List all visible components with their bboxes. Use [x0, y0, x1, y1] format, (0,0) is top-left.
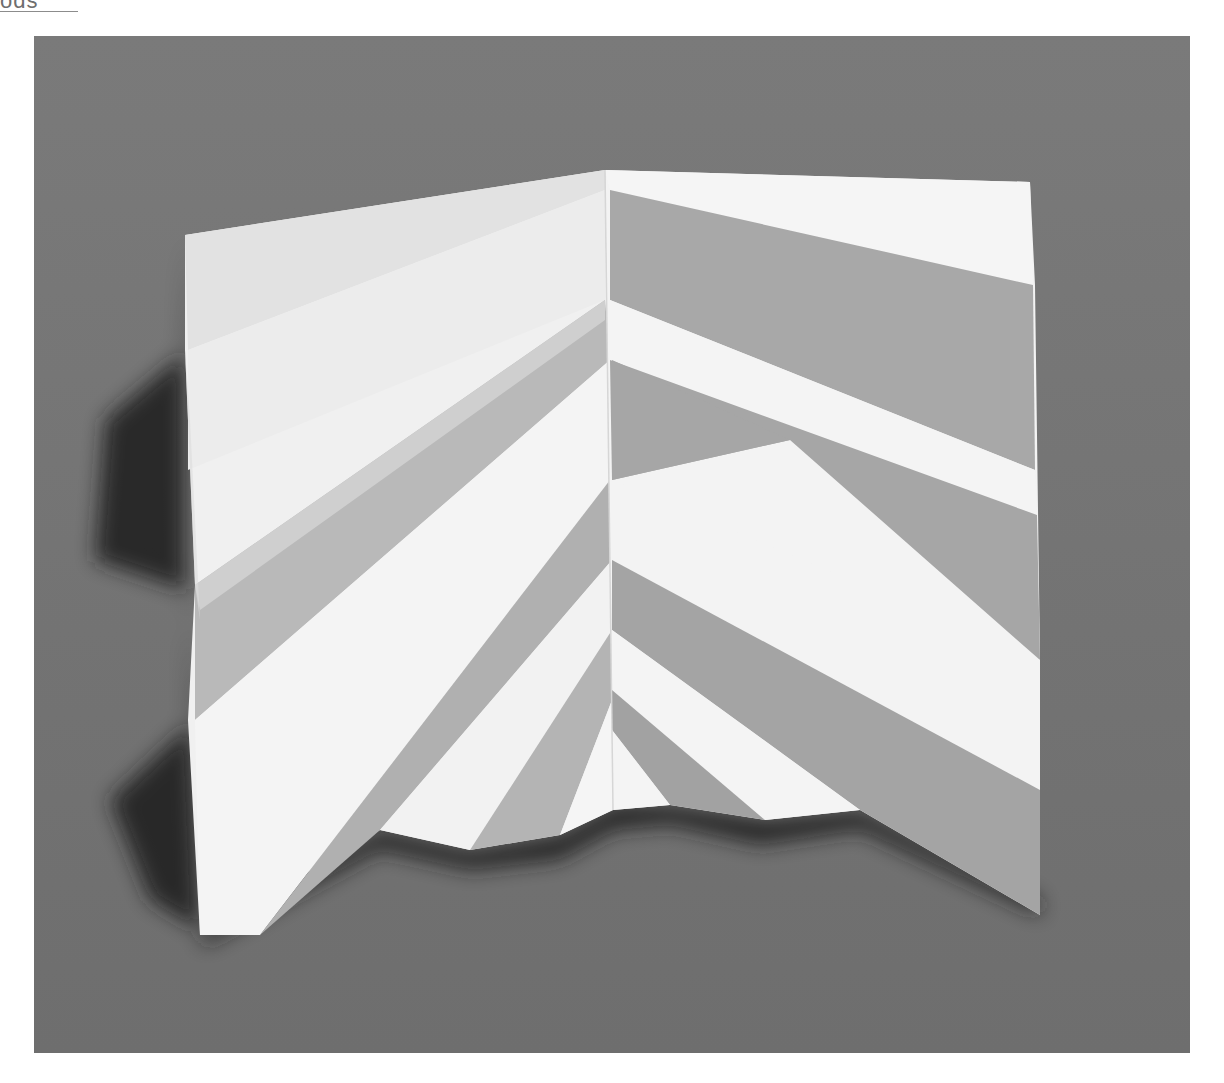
- header-rule: [0, 11, 78, 12]
- folded-paper-figure: [34, 36, 1190, 1053]
- right-panel: [605, 170, 1040, 915]
- photograph: [34, 36, 1190, 1053]
- left-panel: [185, 170, 613, 935]
